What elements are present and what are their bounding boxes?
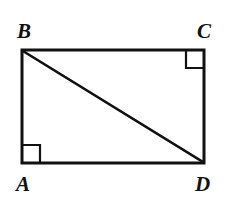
geometry-figure: B C A D bbox=[0, 0, 237, 213]
vertex-label-b: B bbox=[17, 21, 31, 42]
vertex-label-c: C bbox=[197, 21, 211, 42]
vertex-label-a: A bbox=[16, 174, 30, 195]
right-angle-marker-a bbox=[23, 145, 40, 162]
diagonal-bd bbox=[23, 51, 203, 162]
right-angle-marker-c bbox=[186, 51, 203, 68]
vertex-label-d: D bbox=[195, 174, 210, 195]
